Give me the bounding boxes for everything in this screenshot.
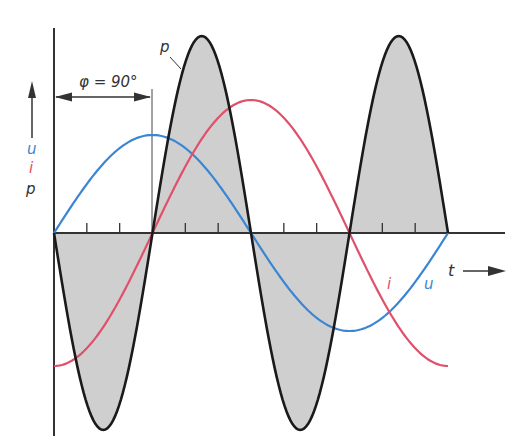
t-axis-label: t: [448, 261, 455, 280]
t-arrow-icon: [488, 266, 506, 276]
phi-label: φ = 90°: [79, 73, 138, 91]
p-axis-label: p: [25, 180, 36, 198]
phi-arrow-right-icon: [134, 93, 151, 102]
i-axis-label: i: [29, 159, 34, 177]
u-curve-label: u: [424, 275, 434, 293]
phi-arrow-left-icon: [55, 93, 72, 102]
phase-shift-diagram: φ = 90° u i p p i u t: [0, 0, 525, 448]
i-curve-label: i: [387, 275, 392, 293]
u-axis-label: u: [27, 140, 37, 158]
p-leader-line: [170, 57, 181, 69]
y-up-arrow-icon: [28, 81, 36, 98]
p-curve-label: p: [159, 38, 170, 56]
